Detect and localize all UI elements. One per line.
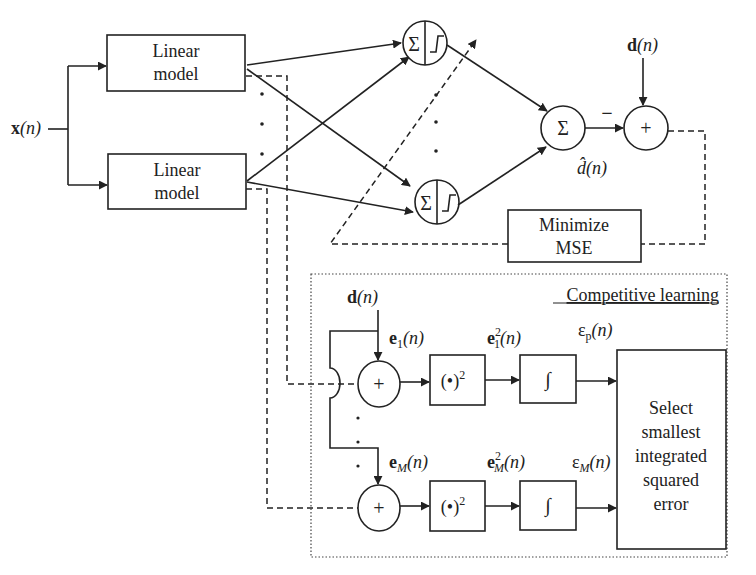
svg-text:Linear: Linear xyxy=(153,41,200,61)
svg-text:error: error xyxy=(654,494,689,514)
squared-error-M-label: e2M(n) xyxy=(487,449,525,475)
svg-text:Select: Select xyxy=(649,398,693,418)
competitive-learning-title: Competitive learning xyxy=(567,285,719,305)
cl-desired-label: d(n) xyxy=(347,287,378,308)
model1-output-tap xyxy=(246,76,370,384)
svg-text:model: model xyxy=(154,64,199,84)
svg-text:+: + xyxy=(373,373,384,395)
error-1-sum-node: + xyxy=(358,361,400,407)
error-1-label: e1(n) xyxy=(389,328,424,351)
sum-symbol: Σ xyxy=(408,33,420,55)
neuron2-to-sum xyxy=(458,147,546,205)
model-to-neuron-connections xyxy=(247,43,413,212)
integrated-error-1-label: εp(n) xyxy=(578,320,613,343)
neuron-2: Σ xyxy=(415,180,459,224)
minimize-mse-box: Minimize MSE xyxy=(508,210,641,262)
error-node: + xyxy=(624,106,668,150)
svg-text:Minimize: Minimize xyxy=(539,215,609,235)
input-label: x(n) xyxy=(11,118,41,139)
svg-text:+: + xyxy=(373,497,384,519)
squared-error-1-label: e21(n) xyxy=(487,325,521,351)
error-M-sum-node: + xyxy=(358,485,400,531)
neuron1-to-sum xyxy=(447,45,547,111)
row-ellipsis xyxy=(356,416,359,467)
svg-text:integrated: integrated xyxy=(635,446,707,466)
svg-text:Linear: Linear xyxy=(154,160,201,180)
square-box-M: (•)2 xyxy=(430,481,485,531)
neuron-1: Σ xyxy=(403,21,447,65)
minus-sign: − xyxy=(601,102,612,124)
svg-text:+: + xyxy=(640,117,651,139)
error-M-label: eM(n) xyxy=(389,452,428,475)
square-box-1: (•)2 xyxy=(430,355,485,405)
input-branch xyxy=(48,66,107,185)
output-sum-node: Σ xyxy=(541,106,585,150)
integrator-M: ∫ xyxy=(520,481,576,530)
linear-model-1: Linear model xyxy=(107,35,245,91)
integrator-1: ∫ xyxy=(520,355,576,403)
block-diagram: x(n) Linear model Linear model Σ Σ xyxy=(0,0,756,575)
desired-label: d(n) xyxy=(627,35,658,56)
svg-text:Σ: Σ xyxy=(557,117,569,139)
estimate-label: d̂(n) xyxy=(577,157,607,179)
linear-model-2: Linear model xyxy=(108,154,246,209)
select-smallest-box: Select smallest integrated squared error xyxy=(617,350,726,549)
modelM-output-tap xyxy=(246,189,381,508)
svg-text:squared: squared xyxy=(643,470,699,490)
integrated-error-M-label: εM(n) xyxy=(572,452,611,475)
sum-symbol: Σ xyxy=(420,192,432,214)
svg-text:smallest: smallest xyxy=(642,422,701,442)
model-ellipsis xyxy=(260,92,264,156)
neuron-ellipsis xyxy=(434,93,438,153)
svg-text:model: model xyxy=(155,183,200,203)
svg-text:MSE: MSE xyxy=(555,238,592,258)
